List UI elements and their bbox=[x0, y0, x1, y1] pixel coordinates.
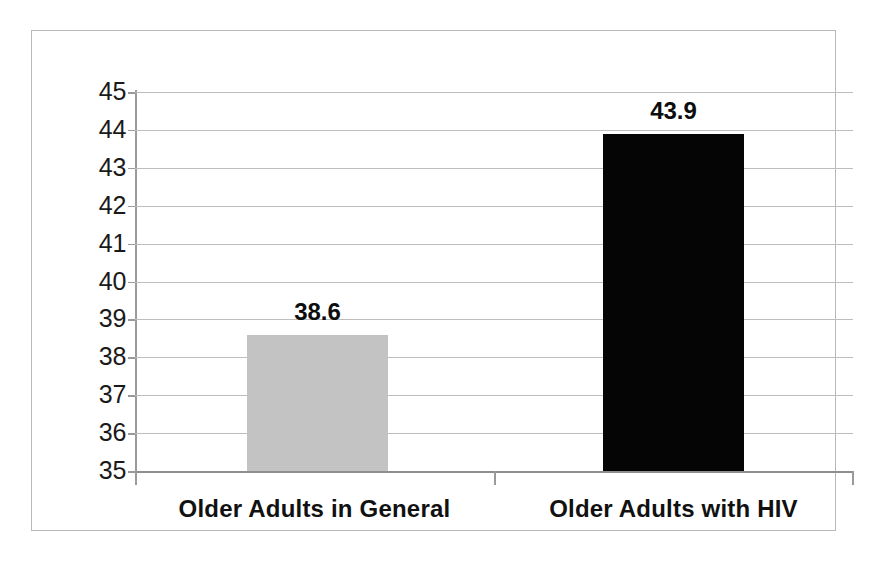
gridline-36 bbox=[135, 433, 853, 434]
gridline-45 bbox=[135, 92, 853, 93]
gridline-41 bbox=[135, 244, 853, 245]
x-axis-category-label-1: Older Adults with HIV bbox=[494, 495, 853, 523]
y-axis-tick-39 bbox=[128, 319, 135, 321]
y-axis-label-39: 39 bbox=[70, 306, 126, 331]
y-axis-tick-43 bbox=[128, 168, 135, 170]
bar-1[interactable] bbox=[603, 134, 744, 471]
x-axis-tick-right bbox=[852, 471, 854, 485]
bar-value-label-1: 43.9 bbox=[573, 97, 774, 125]
gridline-44 bbox=[135, 130, 853, 131]
chart-frame: 4544434241403938373635 Older Adults in G… bbox=[31, 30, 836, 531]
bar-0[interactable] bbox=[247, 335, 388, 471]
x-axis-tick-middle bbox=[494, 471, 496, 485]
y-axis-tick-44 bbox=[128, 130, 135, 132]
gridline-42 bbox=[135, 206, 853, 207]
y-axis-tick-37 bbox=[128, 395, 135, 397]
y-axis-label-45: 45 bbox=[70, 79, 126, 104]
x-axis-tick-left bbox=[135, 471, 137, 485]
y-axis-label-42: 42 bbox=[70, 193, 126, 218]
y-axis-tick-36 bbox=[128, 433, 135, 435]
y-axis-label-36: 36 bbox=[70, 420, 126, 445]
gridline-43 bbox=[135, 168, 853, 169]
y-axis-tick-38 bbox=[128, 357, 135, 359]
y-axis-label-38: 38 bbox=[70, 344, 126, 369]
y-axis-label-40: 40 bbox=[70, 269, 126, 294]
y-axis-tick-45 bbox=[128, 92, 135, 94]
gridline-38 bbox=[135, 357, 853, 358]
gridline-37 bbox=[135, 395, 853, 396]
y-axis-label-37: 37 bbox=[70, 382, 126, 407]
y-axis-label-43: 43 bbox=[70, 155, 126, 180]
gridline-40 bbox=[135, 282, 853, 283]
x-axis-category-label-0: Older Adults in General bbox=[135, 495, 494, 523]
y-axis-tick-40 bbox=[128, 282, 135, 284]
y-axis-label-44: 44 bbox=[70, 117, 126, 142]
y-axis-tick-labels: 4544434241403938373635 bbox=[70, 92, 126, 471]
y-axis-tick-35 bbox=[128, 471, 135, 473]
bar-value-label-0: 38.6 bbox=[217, 298, 418, 326]
y-axis-label-41: 41 bbox=[70, 231, 126, 256]
y-axis-label-35: 35 bbox=[70, 458, 126, 483]
plot-area bbox=[135, 92, 853, 471]
y-axis-tick-41 bbox=[128, 244, 135, 246]
y-axis-tick-42 bbox=[128, 206, 135, 208]
